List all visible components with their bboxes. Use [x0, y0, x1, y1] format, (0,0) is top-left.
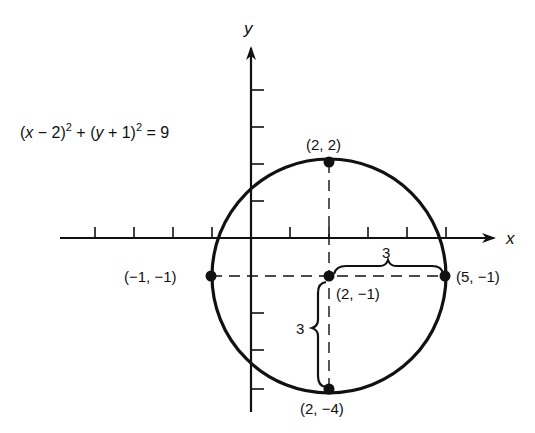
point-right: [440, 271, 451, 282]
y-axis-label: y: [243, 19, 254, 38]
y-axis: y: [243, 19, 264, 412]
circle-equation: (x − 2)2 + (y + 1)2 = 9: [20, 121, 169, 141]
label-center: (2, −1): [336, 285, 380, 302]
point-bottom: [324, 384, 335, 395]
y-axis-ticks: [251, 90, 264, 389]
circle-diagram: x y (x − 2)2 + (y + 1)2 = 9 3 3: [0, 0, 535, 433]
x-axis-label: x: [505, 229, 515, 248]
label-bottom: (2, −4): [300, 400, 344, 417]
horizontal-radius-brace: [334, 260, 443, 274]
point-top: [324, 157, 335, 168]
label-left: (−1, −1): [124, 268, 177, 285]
horizontal-radius-label: 3: [382, 244, 390, 261]
x-axis: x: [60, 227, 515, 248]
vertical-radius-brace: [312, 282, 326, 387]
label-right: (5, −1): [456, 268, 500, 285]
point-left: [206, 271, 217, 282]
vertical-radius-label: 3: [296, 320, 304, 337]
x-axis-ticks: [95, 227, 446, 238]
point-center: [324, 271, 335, 282]
label-top: (2, 2): [306, 136, 341, 153]
